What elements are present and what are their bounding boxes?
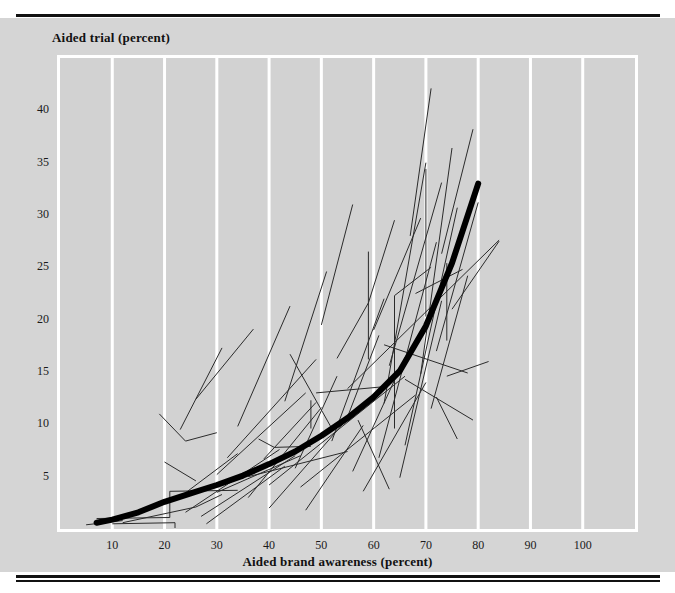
series-line-13: [217, 393, 306, 475]
y-tick-label-10: 10: [15, 416, 49, 431]
bottom-rule-lower: [16, 580, 660, 582]
y-tick-label-5: 5: [15, 469, 49, 484]
x-tick-label-40: 40: [249, 538, 289, 553]
y-tick-label-30: 30: [15, 207, 49, 222]
x-tick-label-90: 90: [510, 538, 550, 553]
series-line-14: [227, 359, 316, 457]
x-tick-label-10: 10: [92, 538, 132, 553]
plot-area: [60, 58, 635, 529]
series-line-25: [321, 205, 352, 325]
series-line-27: [337, 220, 395, 358]
top-rule: [16, 14, 660, 17]
x-tick-label-100: 100: [563, 538, 603, 553]
y-axis-title: Aided trial (percent): [52, 30, 170, 46]
series-line-5: [165, 462, 196, 481]
x-tick-label-30: 30: [197, 538, 237, 553]
series-line-48: [348, 240, 500, 389]
series-line-47: [452, 241, 499, 309]
series-line-15: [238, 306, 290, 426]
x-tick-label-60: 60: [354, 538, 394, 553]
series-line-18: [264, 402, 316, 459]
y-tick-label-40: 40: [15, 102, 49, 117]
series-line-39: [410, 88, 431, 236]
y-tick-label-15: 15: [15, 364, 49, 379]
plot-frame: [57, 55, 638, 532]
y-tick-label-35: 35: [15, 155, 49, 170]
y-tick-label-25: 25: [15, 259, 49, 274]
series-line-44: [436, 202, 478, 351]
exhibit-page: Aided trial (percent) 510152025303540 10…: [0, 0, 675, 593]
trend-curve: [97, 184, 479, 523]
x-axis-title: Aided brand awareness (percent): [0, 554, 675, 570]
series-line-38: [405, 208, 457, 446]
series-line-6: [159, 414, 217, 441]
x-tick-label-50: 50: [301, 538, 341, 553]
y-tick-label-20: 20: [15, 312, 49, 327]
series-line-57: [447, 362, 489, 377]
x-tick-label-70: 70: [406, 538, 446, 553]
chart-canvas: [60, 58, 635, 529]
series-line-8: [196, 329, 254, 399]
x-tick-label-20: 20: [145, 538, 185, 553]
bottom-rule-upper: [16, 575, 660, 578]
series-line-58: [436, 397, 457, 439]
x-tick-label-80: 80: [458, 538, 498, 553]
